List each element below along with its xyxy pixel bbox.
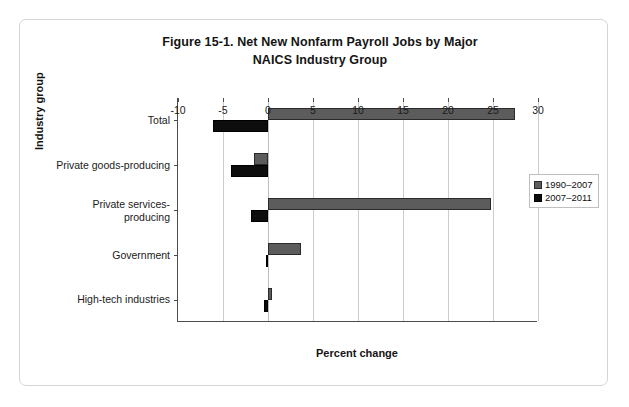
y-axis-tick-label-line: Total	[20, 114, 170, 127]
x-axis-tick-label: 0	[248, 104, 288, 116]
x-axis-tick	[313, 98, 314, 102]
x-axis-tick	[178, 98, 179, 102]
bar-1-3	[266, 255, 268, 267]
bar-0-3	[268, 243, 301, 255]
legend-swatch-icon	[534, 194, 542, 202]
y-axis-tick	[174, 120, 178, 121]
bar-0-4	[268, 288, 272, 300]
chart-title-line-1: Figure 15-1. Net New Nonfarm Payroll Job…	[100, 33, 540, 51]
x-axis-tick	[223, 98, 224, 102]
chart-title: Figure 15-1. Net New Nonfarm Payroll Job…	[100, 33, 540, 69]
y-axis-tick	[174, 300, 178, 301]
x-axis-title: Percent change	[177, 347, 537, 359]
x-axis-tick-label: 5	[293, 104, 333, 116]
x-axis-tick	[403, 98, 404, 102]
bar-1-4	[264, 300, 268, 312]
chart-title-line-2: NAICS Industry Group	[100, 51, 540, 69]
x-axis-tick-label: 20	[428, 104, 468, 116]
x-axis-tick	[358, 98, 359, 102]
y-axis-tick-label-line: Private services-	[20, 198, 170, 211]
gridline	[493, 98, 494, 321]
bar-0-2	[268, 198, 491, 210]
x-axis-tick	[448, 98, 449, 102]
legend-swatch-icon	[534, 181, 542, 189]
y-axis-tick-label: High-tech industries	[20, 293, 170, 306]
legend-label: 1990–2007	[545, 179, 593, 190]
bar-1-1	[231, 165, 268, 177]
x-axis-tick	[493, 98, 494, 102]
y-axis-tick-label-line: High-tech industries	[20, 293, 170, 306]
y-axis-tick-label: Private services-producing	[20, 198, 170, 223]
x-axis-tick	[538, 98, 539, 102]
y-axis-tick-label-line: Private goods-producing	[20, 159, 170, 172]
bar-0-1	[254, 153, 268, 165]
y-axis-title: Industry group	[33, 72, 45, 150]
x-axis-tick-label: 30	[518, 104, 558, 116]
y-axis-tick	[174, 255, 178, 256]
plot-area: -10-5051015202530 TotalPrivate goods-pro…	[177, 98, 537, 322]
y-axis-tick	[174, 210, 178, 211]
legend-item: 2007–2011	[534, 191, 593, 204]
bar-1-2	[251, 210, 268, 222]
legend: 1990–20072007–2011	[529, 174, 599, 208]
x-axis-tick-label: -5	[203, 104, 243, 116]
y-axis-tick-label: Government	[20, 249, 170, 262]
x-axis-tick-label: 10	[338, 104, 378, 116]
bar-1-0	[213, 120, 268, 132]
legend-item: 1990–2007	[534, 178, 593, 191]
x-axis-tick-label: 15	[383, 104, 423, 116]
legend-label: 2007–2011	[545, 192, 592, 203]
y-axis-tick-label: Total	[20, 114, 170, 127]
x-axis-tick	[268, 98, 269, 102]
gridline	[538, 98, 539, 321]
y-axis-tick-label: Private goods-producing	[20, 159, 170, 172]
y-axis-tick-label-line: producing	[20, 211, 170, 224]
y-axis-tick	[174, 165, 178, 166]
figure-page: Figure 15-1. Net New Nonfarm Payroll Job…	[0, 0, 629, 407]
x-axis-tick-label: 25	[473, 104, 513, 116]
y-axis-tick-label-line: Government	[20, 249, 170, 262]
